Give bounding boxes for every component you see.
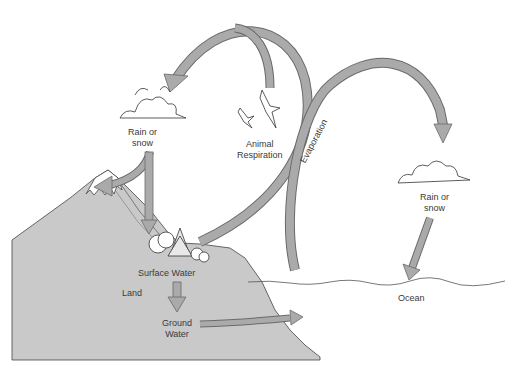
- label-surface-water: Surface Water: [138, 268, 195, 279]
- label-ocean: Ocean: [398, 293, 425, 304]
- ocean-surface-icon: [248, 278, 505, 286]
- arrow-surface-to-ground: [173, 282, 181, 298]
- label-rain-right: Rain orsnow: [420, 192, 449, 214]
- label-land: Land: [122, 288, 142, 299]
- label-rain-left: Rain orsnow: [128, 127, 157, 149]
- cloud-left-icon: [120, 86, 186, 118]
- label-animal-respiration: AnimalRespiration: [237, 139, 283, 161]
- water-cycle-diagram: [0, 0, 514, 379]
- arrow-rain-to-surface: [145, 152, 153, 222]
- bird-icon: [238, 90, 280, 128]
- arrowhead-icon: [164, 74, 188, 92]
- label-ground-water: GroundWater: [162, 318, 192, 340]
- cloud-right-icon: [398, 161, 470, 183]
- arrowhead-icon: [434, 124, 452, 143]
